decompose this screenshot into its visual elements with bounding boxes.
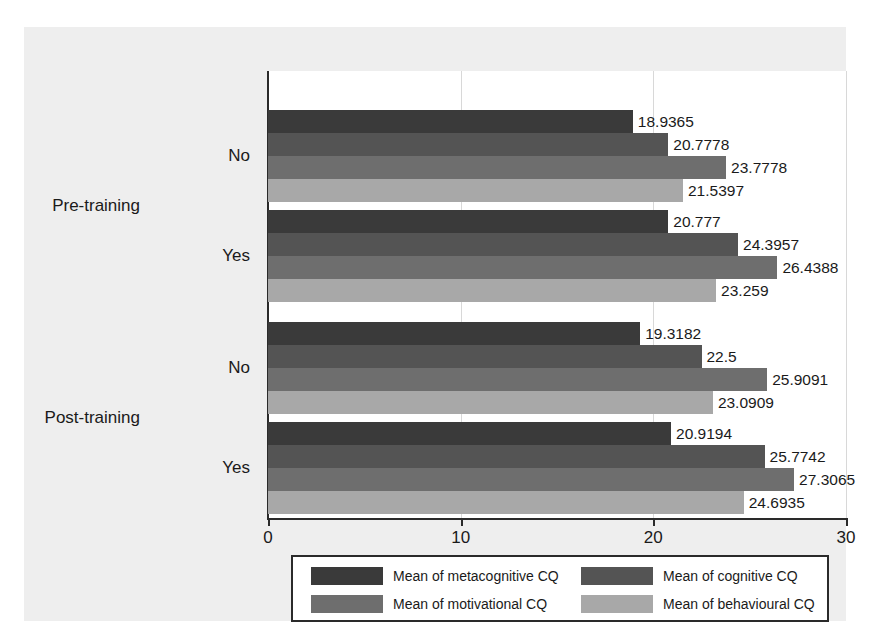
- legend-swatch: [581, 567, 653, 585]
- bar-value-label: 20.777: [673, 210, 720, 233]
- x-tick-label-10: 10: [451, 528, 470, 548]
- x-tick-0: [268, 518, 270, 526]
- bar-value-label: 21.5397: [688, 179, 744, 202]
- legend-label: Mean of behavioural CQ: [663, 596, 815, 612]
- legend-label: Mean of cognitive CQ: [663, 568, 798, 584]
- x-tick-label-0: 0: [263, 528, 272, 548]
- category-label-yes: Yes: [158, 246, 250, 266]
- bar-value-label: 20.9194: [676, 422, 732, 445]
- bar-value-label: 23.7778: [731, 156, 787, 179]
- bar: [268, 110, 633, 133]
- legend-swatch: [311, 595, 383, 613]
- bar: [268, 422, 671, 445]
- bar: [268, 468, 794, 491]
- bar-value-label: 23.259: [721, 279, 768, 302]
- bar-value-label: 25.7742: [770, 445, 826, 468]
- legend-item: Mean of motivational CQ: [311, 595, 547, 613]
- category-label-no: No: [158, 146, 250, 166]
- group-label-post-training: Post-training: [24, 408, 140, 428]
- bar-value-label: 26.4388: [782, 256, 838, 279]
- bar: [268, 491, 744, 514]
- x-tick-20: [653, 518, 655, 526]
- bar-value-label: 23.0909: [718, 391, 774, 414]
- bar-value-label: 18.9365: [638, 110, 694, 133]
- legend-swatch: [581, 595, 653, 613]
- bar: [268, 156, 726, 179]
- chart-canvas: 0102030 18.936520.777823.777821.539720.7…: [24, 27, 846, 621]
- bar: [268, 279, 716, 302]
- x-tick-30: [846, 518, 848, 526]
- bar: [268, 210, 668, 233]
- category-label-yes: Yes: [158, 458, 250, 478]
- legend-item: Mean of behavioural CQ: [581, 595, 815, 613]
- legend-label: Mean of metacognitive CQ: [393, 568, 559, 584]
- bar: [268, 256, 777, 279]
- bar: [268, 179, 683, 202]
- bar-value-label: 25.9091: [772, 368, 828, 391]
- gridline-30: [846, 71, 847, 518]
- bar: [268, 322, 640, 345]
- bar: [268, 368, 767, 391]
- bar: [268, 345, 702, 368]
- x-tick-label-20: 20: [644, 528, 663, 548]
- x-axis-line: [267, 518, 846, 520]
- bar: [268, 233, 738, 256]
- bar-value-label: 24.3957: [743, 233, 799, 256]
- bar-value-label: 24.6935: [749, 491, 805, 514]
- legend-item: Mean of cognitive CQ: [581, 567, 798, 585]
- bar: [268, 133, 668, 156]
- legend: Mean of metacognitive CQMean of cognitiv…: [291, 555, 829, 622]
- bar-value-label: 19.3182: [645, 322, 701, 345]
- bar: [268, 445, 765, 468]
- category-label-no: No: [158, 358, 250, 378]
- legend-swatch: [311, 567, 383, 585]
- bar-value-label: 27.3065: [799, 468, 855, 491]
- x-tick-label-30: 30: [837, 528, 856, 548]
- bar: [268, 391, 713, 414]
- group-label-pre-training: Pre-training: [24, 196, 140, 216]
- bar-value-label: 22.5: [707, 345, 737, 368]
- legend-item: Mean of metacognitive CQ: [311, 567, 559, 585]
- legend-label: Mean of motivational CQ: [393, 596, 547, 612]
- bar-value-label: 20.7778: [673, 133, 729, 156]
- x-tick-10: [461, 518, 463, 526]
